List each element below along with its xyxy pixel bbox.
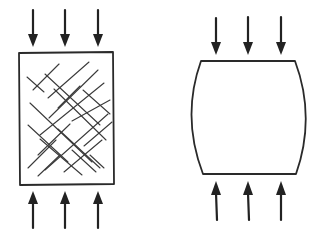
crack-pattern: [27, 62, 112, 176]
top-load-arrows-left: [28, 10, 103, 47]
barrel-outline: [191, 61, 305, 174]
up-arrow-icon: [243, 181, 253, 220]
barreled-specimen: [191, 17, 305, 220]
up-arrow-icon: [60, 191, 70, 228]
top-load-arrows-right: [211, 17, 286, 55]
block-outline: [19, 52, 114, 185]
down-arrow-icon: [93, 10, 103, 47]
up-arrow-icon: [28, 191, 38, 228]
down-arrow-icon: [243, 17, 253, 55]
bottom-load-arrows-left: [28, 191, 103, 228]
cracked-specimen: [19, 10, 114, 228]
down-arrow-icon: [276, 17, 286, 55]
down-arrow-icon: [28, 10, 38, 47]
down-arrow-icon: [211, 18, 221, 55]
up-arrow-icon: [93, 191, 103, 228]
up-arrow-icon: [276, 181, 286, 220]
bottom-load-arrows-right: [211, 181, 286, 220]
compression-diagram: [0, 0, 315, 236]
up-arrow-icon: [211, 181, 221, 220]
diagram-svg: [0, 0, 315, 236]
down-arrow-icon: [60, 10, 70, 47]
